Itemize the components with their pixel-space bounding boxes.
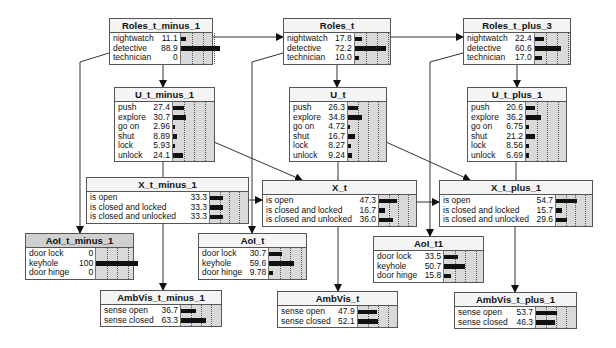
node-x-t[interactable]: X_tis open47.3is closed and locked16.7is…: [262, 180, 417, 227]
state-name: is closed and unlocked: [443, 215, 533, 225]
node-aoi-t-minus-1[interactable]: AoI_t_minus_1door lock0keyhole100door hi…: [25, 233, 134, 280]
state-probability: 6.69: [503, 151, 523, 161]
state-row[interactable]: is closed and unlocked36.0: [266, 215, 376, 225]
probability-bar: [444, 255, 458, 260]
bar-row: [269, 249, 306, 259]
probability-bar: [536, 311, 557, 316]
belief-bars: [443, 251, 483, 282]
bar-row: [173, 141, 214, 151]
bar-row: [181, 306, 221, 316]
bar-row: [173, 122, 214, 132]
probability-bar: [535, 56, 542, 61]
state-name: door hinge: [377, 271, 421, 281]
state-list: is open33.3is closed and locked33.3is cl…: [87, 192, 209, 223]
state-name: sense closed: [458, 318, 513, 328]
state-list: nightwatch22.4detective60.6technician17.…: [464, 33, 534, 64]
node-x-t-minus-1[interactable]: X_t_minus_1is open33.3is closed and lock…: [86, 177, 249, 224]
bar-row: [96, 268, 133, 278]
node-title: X_t_minus_1: [87, 178, 248, 192]
probability-bar: [348, 134, 355, 139]
node-x-t-plus-1[interactable]: X_t_plus_1is open54.7is closed and locke…: [439, 180, 593, 227]
state-row[interactable]: is closed and unlocked29.6: [443, 215, 553, 225]
node-title: AoI_t: [199, 234, 306, 248]
bar-row: [269, 268, 306, 278]
bar-row: [358, 307, 397, 317]
bar-row: [173, 151, 214, 161]
node-roles-t[interactable]: Roles_tnightwatch17.8detective72.2techni…: [283, 18, 391, 65]
state-row[interactable]: door hinge0: [29, 268, 93, 278]
state-probability: 9.24: [325, 151, 345, 161]
bar-row: [348, 103, 386, 113]
state-list: nightwatch11.1detective88.9technician0: [110, 33, 180, 64]
state-name: technician: [467, 53, 512, 63]
state-row[interactable]: sense closed52.1: [281, 317, 355, 327]
state-row[interactable]: door hinge9.78: [202, 268, 266, 278]
bar-row: [556, 215, 592, 225]
bar-row: [535, 34, 570, 44]
state-row[interactable]: door hinge15.8: [377, 271, 441, 281]
node-aoi-t[interactable]: AoI_tdoor lock30.7keyhole59.6door hinge9…: [198, 233, 307, 280]
state-name: door hinge: [202, 268, 246, 278]
state-list: door lock33.5keyhole50.7door hinge15.8: [374, 251, 443, 282]
bar-row: [526, 113, 566, 123]
state-list: nightwatch17.8detective72.2technician10.…: [284, 33, 354, 64]
bar-row: [526, 122, 566, 132]
node-ambvis-t[interactable]: AmbVis_tsense open47.9sense closed52.1: [277, 291, 398, 328]
node-roles-t-plus-3[interactable]: Roles_t_plus_3nightwatch22.4detective60.…: [463, 18, 571, 65]
state-probability: 15.8: [421, 271, 441, 281]
probability-bar: [444, 274, 451, 279]
node-u-t[interactable]: U_tpush26.3explore34.8go on4.72shut16.7l…: [289, 87, 387, 162]
state-row[interactable]: sense closed63.3: [104, 316, 178, 326]
node-title: Roles_t_plus_3: [464, 19, 570, 33]
bar-row: [348, 151, 386, 161]
node-title: AmbVis_t_plus_1: [455, 293, 576, 307]
bar-row: [210, 212, 248, 222]
probability-bar: [269, 271, 273, 276]
probability-bar: [536, 320, 555, 325]
node-body: door lock30.7keyhole59.6door hinge9.78: [199, 248, 306, 279]
belief-bars: [354, 33, 390, 64]
probability-bar: [173, 106, 185, 111]
bar-row: [96, 249, 133, 259]
state-row[interactable]: is closed and unlocked33.3: [90, 212, 207, 222]
node-title: U_t_minus_1: [115, 88, 214, 102]
node-roles-t-minus-1[interactable]: Roles_t_minus_1nightwatch11.1detective88…: [109, 18, 213, 65]
bar-row: [355, 44, 390, 54]
state-row[interactable]: technician17.0: [467, 53, 532, 63]
probability-bar: [96, 261, 138, 266]
bar-row: [536, 318, 576, 328]
state-probability: 52.1: [335, 317, 355, 327]
probability-bar: [526, 115, 541, 120]
bar-row: [526, 151, 566, 161]
state-row[interactable]: unlock6.69: [471, 151, 523, 161]
probability-bar: [181, 318, 206, 323]
state-row[interactable]: sense closed46.3: [458, 318, 533, 328]
node-body: is open33.3is closed and locked33.3is cl…: [87, 192, 248, 223]
probability-bar: [210, 215, 223, 220]
bar-row: [348, 122, 386, 132]
bar-row: [444, 252, 483, 262]
state-probability: 0: [158, 53, 178, 63]
node-aoi-t1[interactable]: AoI_t1door lock33.5keyhole50.7door hinge…: [373, 236, 484, 283]
state-row[interactable]: unlock9.24: [293, 151, 345, 161]
node-ambvis-t-plus-1[interactable]: AmbVis_t_plus_1sense open53.7sense close…: [454, 292, 577, 329]
probability-bar: [526, 144, 530, 149]
node-ambvis-t-minus-1[interactable]: AmbVis_t_minus_1sense open36.7sense clos…: [100, 290, 222, 327]
belief-bars: [209, 192, 248, 223]
probability-bar: [348, 106, 359, 111]
state-row[interactable]: technician10.0: [287, 53, 352, 63]
bar-row: [181, 44, 212, 54]
state-probability: 9.78: [246, 268, 266, 278]
probability-bar: [535, 37, 545, 42]
state-name: door hinge: [29, 268, 73, 278]
bar-row: [526, 141, 566, 151]
probability-bar: [379, 218, 393, 223]
state-row[interactable]: technician0: [113, 53, 178, 63]
state-row[interactable]: unlock24.1: [118, 151, 170, 161]
belief-bars: [525, 102, 566, 161]
bar-row: [526, 132, 566, 142]
node-u-t-plus-1[interactable]: U_t_plus_1push20.6explore36.2go on6.75sh…: [467, 87, 567, 162]
node-title: Roles_t_minus_1: [110, 19, 212, 33]
node-u-t-minus-1[interactable]: U_t_minus_1push27.4explore30.7go on2.96s…: [114, 87, 215, 162]
state-list: is open54.7is closed and locked15.7is cl…: [440, 195, 555, 226]
